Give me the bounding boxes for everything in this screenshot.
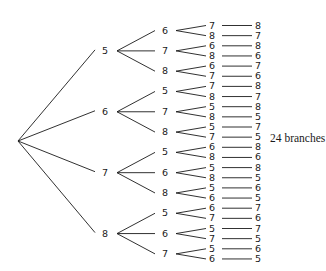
branch-line [176, 168, 206, 173]
level3-node: 6 [209, 254, 215, 264]
level2-node: 8 [162, 188, 168, 198]
branch-line [18, 50, 95, 141]
level2-node: 6 [162, 26, 168, 36]
branch-line [117, 112, 155, 132]
branch-line [176, 71, 206, 76]
branch-line [18, 141, 95, 233]
branch-line [117, 91, 155, 111]
level1-node: 8 [102, 229, 108, 239]
branch-line [18, 141, 95, 172]
level2-node: 8 [162, 127, 168, 137]
branch-line [176, 152, 206, 157]
branch-line [176, 173, 206, 178]
branch-line [176, 91, 206, 96]
branch-line [176, 107, 206, 112]
branch-line [176, 66, 206, 71]
branch-line [117, 213, 155, 233]
branch-line [176, 46, 206, 51]
level2-node: 7 [162, 107, 168, 117]
branch-line [176, 86, 206, 91]
level1-node: 5 [102, 46, 108, 56]
level2-node: 5 [162, 86, 168, 96]
level2-node: 7 [162, 46, 168, 56]
level1-node: 7 [102, 168, 108, 178]
branch-line [176, 208, 206, 213]
branch-line [176, 254, 206, 259]
branch-line [176, 127, 206, 132]
level4-node: 5 [255, 254, 261, 264]
level2-node: 6 [162, 229, 168, 239]
branch-count-caption: 24 branches [270, 132, 325, 144]
branch-line [176, 229, 206, 234]
level2-node: 6 [162, 168, 168, 178]
branch-line [117, 152, 155, 172]
level2-node: 5 [162, 147, 168, 157]
branch-line [176, 193, 206, 198]
level2-node: 7 [162, 249, 168, 259]
branch-line [176, 147, 206, 152]
branch-line [117, 173, 155, 193]
branch-line [176, 213, 206, 218]
level2-node: 5 [162, 208, 168, 218]
branch-line [176, 26, 206, 31]
branch-line [117, 234, 155, 254]
branch-line [176, 112, 206, 117]
branch-line [18, 111, 95, 141]
branch-line [117, 51, 155, 71]
branch-line [176, 249, 206, 254]
branch-line [117, 31, 155, 51]
level2-node: 8 [162, 66, 168, 76]
level1-node: 6 [102, 107, 108, 117]
branch-line [176, 234, 206, 239]
branch-line [176, 31, 206, 36]
branch-line [176, 132, 206, 137]
branch-line [176, 188, 206, 193]
branch-line [176, 51, 206, 56]
